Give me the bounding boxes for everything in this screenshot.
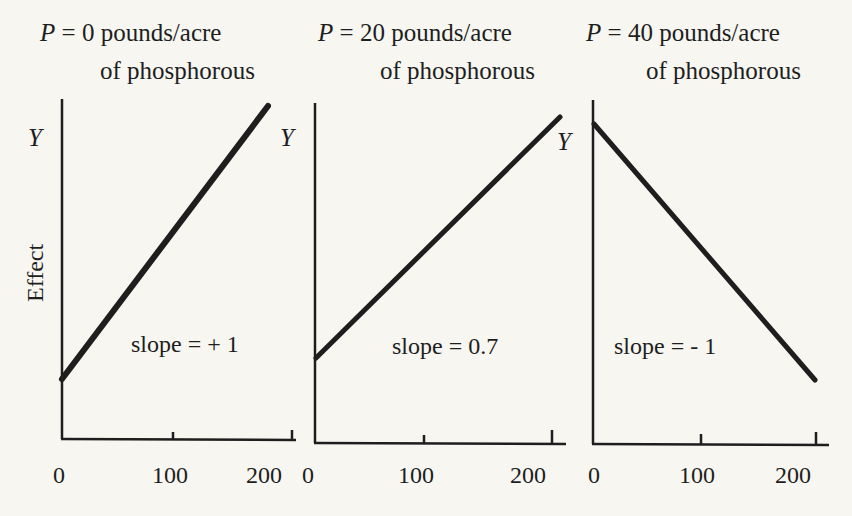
panel-1-xtick-200: 200 — [246, 462, 282, 489]
panel-1-axes — [61, 99, 296, 440]
panel-1-xtick-100: 100 — [152, 462, 188, 489]
panel-2-axes — [314, 103, 566, 444]
panel-2-x-axis — [314, 443, 566, 444]
panel-3-axes — [592, 100, 829, 445]
panel-3-x-axis — [592, 444, 829, 445]
panel-3-slope-annotation: slope = - 1 — [614, 333, 716, 360]
panel-2-data-line — [316, 117, 560, 358]
panel-3-xtick-100: 100 — [679, 462, 715, 489]
panel-2-xtick-100: 100 — [398, 462, 434, 489]
panel-1-slope-annotation: slope = + 1 — [131, 331, 239, 358]
panel-3-xtick-0: 0 — [588, 462, 600, 489]
panel-1-xtick-0: 0 — [53, 462, 65, 489]
panel-2-xtick-0: 0 — [302, 462, 314, 489]
chart-canvas — [0, 0, 852, 516]
panel-2-xtick-200: 200 — [510, 462, 546, 489]
panel-2-slope-annotation: slope = 0.7 — [392, 333, 498, 360]
panel-3-xtick-200: 200 — [775, 462, 811, 489]
panel-1-x-axis — [61, 439, 296, 440]
